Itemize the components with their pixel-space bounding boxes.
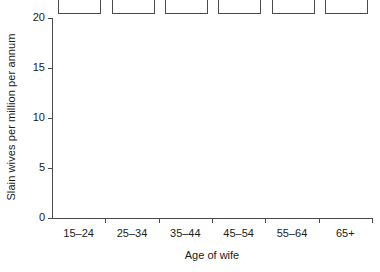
x-axis-title: Age of wife [52, 248, 372, 262]
plot-area: 0510152015–2425–3435–4445–5455–6465+ [52, 14, 372, 218]
y-tick-mark [48, 68, 52, 69]
y-tick-label: 5 [39, 160, 45, 175]
bar [325, 0, 368, 14]
x-tick-mark [372, 218, 373, 223]
bar [58, 0, 101, 14]
y-axis-line [52, 18, 53, 218]
y-tick-label: 0 [39, 210, 45, 225]
y-tick-mark [48, 18, 52, 19]
x-tick-mark [265, 218, 266, 223]
x-tick-label: 25–34 [105, 226, 158, 240]
y-tick-mark [48, 168, 52, 169]
x-tick-label: 35–44 [159, 226, 212, 240]
y-tick-label: 15 [33, 60, 45, 75]
bar [165, 0, 208, 14]
x-tick-label: 65+ [319, 226, 372, 240]
bar [218, 0, 261, 14]
y-tick-mark [48, 118, 52, 119]
x-tick-mark [105, 218, 106, 223]
x-tick-label: 45–54 [212, 226, 265, 240]
bar-chart-figure: Slain wives per million per annum 051015… [0, 0, 380, 272]
x-tick-mark [319, 218, 320, 223]
x-tick-mark [212, 218, 213, 223]
x-tick-label: 15–24 [52, 226, 105, 240]
y-tick-label: 10 [33, 110, 45, 125]
y-tick-mark [48, 218, 52, 219]
y-tick-label: 20 [33, 10, 45, 25]
y-axis-title: Slain wives per million per annum [2, 8, 20, 226]
bar [272, 0, 315, 14]
bar [112, 0, 155, 14]
x-tick-mark [159, 218, 160, 223]
x-tick-label: 55–64 [265, 226, 318, 240]
